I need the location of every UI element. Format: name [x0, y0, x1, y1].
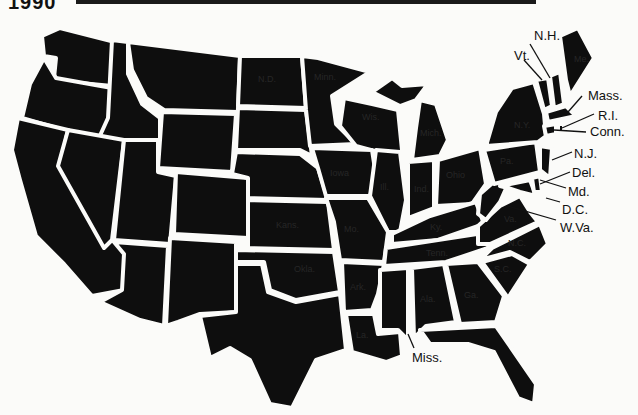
label-maine: Me.: [574, 54, 589, 64]
callout-md: Md.: [568, 184, 590, 199]
label-ga: Ga.: [464, 290, 479, 300]
state-mississippi[interactable]: [380, 268, 408, 340]
state-colorado[interactable]: [174, 172, 248, 238]
state-wyoming[interactable]: [158, 112, 236, 172]
label-ky: Ky.: [430, 222, 442, 232]
label-ny: N.Y.: [514, 120, 530, 130]
state-new-hampshire[interactable]: [550, 72, 564, 108]
label-nc: N.C.: [508, 238, 526, 248]
label-la: La.: [356, 330, 369, 340]
callout-wva: W.Va.: [560, 220, 594, 235]
label-ill: Ill.: [380, 182, 389, 192]
callout-dc: D.C.: [562, 202, 588, 217]
label-okla: Okla.: [294, 264, 315, 274]
label-sc: S.C.: [494, 264, 512, 274]
label-nd: N.D.: [258, 74, 276, 84]
label-ind: Ind.: [414, 184, 429, 194]
leader-vt: [524, 60, 542, 80]
label-ark: Ark.: [350, 282, 366, 292]
us-states-map: N.D. Minn. Wis. Mich. Ohio Pa. N.Y. Me. …: [0, 0, 638, 415]
state-montana[interactable]: [128, 42, 240, 112]
callout-mass: Mass.: [588, 88, 623, 103]
label-pa: Pa.: [500, 156, 514, 166]
state-new-york[interactable]: [486, 82, 546, 146]
label-mich: Mich.: [420, 128, 442, 138]
label-ala: Ala.: [420, 294, 436, 304]
label-wis: Wis.: [362, 112, 380, 122]
leader-mass: [568, 96, 582, 112]
leader-md: [540, 180, 566, 188]
callout-conn: Conn.: [590, 124, 625, 139]
label-minn: Minn.: [314, 72, 336, 82]
leader-nj: [552, 152, 572, 160]
state-florida[interactable]: [420, 326, 536, 404]
label-ohio: Ohio: [446, 170, 465, 180]
callout-vt: Vt.: [514, 48, 530, 63]
callout-nj: N.J.: [574, 146, 597, 161]
label-va: Va.: [504, 214, 517, 224]
leader-nh: [530, 44, 550, 78]
label-kans: Kans.: [276, 220, 299, 230]
callout-del: Del.: [572, 165, 595, 180]
state-south-dakota[interactable]: [236, 108, 312, 156]
state-new-jersey[interactable]: [540, 146, 552, 178]
label-mo: Mo.: [344, 224, 359, 234]
leader-dc: [546, 198, 560, 202]
callout-nh: N.H.: [534, 28, 560, 43]
label-iowa: Iowa: [330, 168, 349, 178]
callout-miss: Miss.: [412, 350, 442, 365]
label-tenn: Tenn.: [426, 248, 448, 258]
callout-ri: R.I.: [598, 108, 618, 123]
